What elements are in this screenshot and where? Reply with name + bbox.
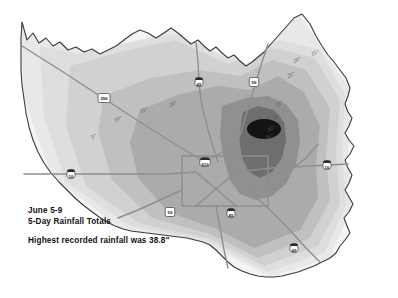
highway-shield-i-10-west[interactable]: 10 [67, 170, 75, 179]
highway-shield-number: 45 [292, 248, 297, 253]
interstate-shield-crown [195, 78, 203, 81]
highway-shield-number: 10 [325, 165, 330, 170]
map-canvas: 5"10"15"20"15"20"25"20"15"30"35" 2904559… [0, 0, 398, 298]
caption-max-note: Highest recorded rainfall was 38.8" [28, 236, 170, 247]
caption-date-line: June 5-9 [28, 206, 170, 217]
highway-shield-i-610-loop[interactable]: 610 [200, 158, 211, 167]
highway-shield-i-45-north[interactable]: 45 [195, 78, 203, 87]
caption-title-line: 5-Day Rainfall Totals [28, 217, 170, 228]
highway-shield-us-290[interactable]: 290 [98, 94, 110, 103]
rainfall-map: 5"10"15"20"15"20"25"20"15"30"35" 2904559… [0, 0, 398, 298]
caption-spacer [28, 227, 170, 236]
highway-shield-number: 45 [197, 82, 202, 87]
highway-shield-number: 10 [69, 174, 74, 179]
interstate-shield-crown [323, 161, 331, 164]
highway-shield-i-45-south[interactable]: 45 [227, 209, 235, 218]
highway-shield-number: 45 [229, 213, 234, 218]
highway-shield-i-10-east[interactable]: 10 [323, 161, 331, 170]
highway-shield-number: 610 [201, 162, 209, 167]
highway-shield-number: 290 [100, 96, 108, 101]
highway-shield-us-59-north[interactable]: 59 [249, 78, 259, 87]
highway-shield-number: 59 [252, 80, 257, 85]
highway-shield-i-45-gulf[interactable]: 45 [290, 244, 298, 253]
interstate-shield-crown [227, 209, 235, 212]
interstate-shield-crown [67, 170, 75, 173]
map-caption: June 5-9 5-Day Rainfall Totals Highest r… [28, 206, 170, 247]
rainfall-contour-bands [0, 0, 398, 298]
interstate-shield-crown [200, 158, 210, 161]
interstate-shield-crown [290, 244, 298, 247]
